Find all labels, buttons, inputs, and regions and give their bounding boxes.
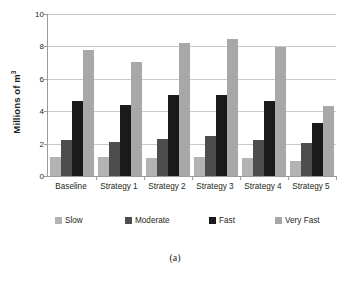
bar xyxy=(323,106,334,176)
bar-group xyxy=(288,14,336,176)
y-axis-title: Millions of m3 xyxy=(10,42,22,162)
bar xyxy=(146,158,157,176)
plot-area xyxy=(47,14,336,177)
bar xyxy=(98,157,109,176)
bar xyxy=(179,43,190,176)
x-axis-tick xyxy=(240,176,241,180)
legend-item[interactable]: Very Fast xyxy=(275,216,320,225)
bar xyxy=(50,157,61,176)
legend-label: Slow xyxy=(65,216,83,225)
x-axis-category-label: Baseline xyxy=(55,182,86,191)
bar xyxy=(109,142,120,176)
bar xyxy=(72,101,83,176)
legend-swatch-icon xyxy=(275,217,282,224)
bar xyxy=(194,157,205,176)
x-axis-category-label: Strategy 5 xyxy=(292,182,329,191)
y-axis-tick-labels: 0246810 xyxy=(24,14,44,176)
x-axis-tick xyxy=(192,176,193,180)
bar xyxy=(290,161,301,176)
legend-item[interactable]: Slow xyxy=(55,216,83,225)
bar xyxy=(61,140,72,176)
y-axis-tick xyxy=(44,46,48,47)
bar xyxy=(168,95,179,176)
bar-chart: Millions of m3 0246810 BaselineStrategy … xyxy=(0,0,350,243)
y-axis-tick xyxy=(44,144,48,145)
legend-item[interactable]: Moderate xyxy=(125,216,170,225)
bar xyxy=(205,136,216,176)
x-axis-tick xyxy=(288,176,289,180)
figure-caption: (a) xyxy=(0,252,350,263)
bar-groups xyxy=(48,14,336,176)
legend-swatch-icon xyxy=(125,217,132,224)
bar-group xyxy=(192,14,240,176)
x-axis-category-label: Strategy 2 xyxy=(148,182,185,191)
bar xyxy=(157,139,168,176)
y-axis-title-superscript: 3 xyxy=(10,71,17,75)
x-axis-category-label: Strategy 4 xyxy=(244,182,281,191)
legend-item[interactable]: Fast xyxy=(209,216,235,225)
bar xyxy=(301,143,312,176)
bar xyxy=(120,105,131,176)
bar-group xyxy=(144,14,192,176)
x-axis-category-labels: BaselineStrategy 1Strategy 2Strategy 3St… xyxy=(47,182,335,198)
bar xyxy=(312,123,323,176)
bar xyxy=(275,47,286,176)
bar xyxy=(253,140,264,176)
y-axis-tick xyxy=(44,79,48,80)
legend-label: Very Fast xyxy=(285,216,320,225)
chart-legend: SlowModerateFastVery Fast xyxy=(47,216,335,232)
legend-label: Moderate xyxy=(135,216,170,225)
bar xyxy=(216,95,227,176)
x-axis-tick xyxy=(336,176,337,180)
y-axis-tick-label: 10 xyxy=(35,10,44,19)
x-axis-category-label: Strategy 3 xyxy=(196,182,233,191)
bar-group xyxy=(48,14,96,176)
bar xyxy=(83,50,94,176)
figure-panel: Millions of m3 0246810 BaselineStrategy … xyxy=(0,0,350,282)
x-axis-category-label: Strategy 1 xyxy=(100,182,137,191)
x-axis-tick xyxy=(96,176,97,180)
bar xyxy=(242,158,253,176)
y-axis-title-text: Millions of m xyxy=(11,74,22,133)
y-axis-tick xyxy=(44,176,48,177)
bar-group xyxy=(240,14,288,176)
y-axis-tick xyxy=(44,14,48,15)
legend-swatch-icon xyxy=(209,217,216,224)
bar xyxy=(264,101,275,176)
y-axis-tick xyxy=(44,111,48,112)
legend-label: Fast xyxy=(219,216,235,225)
x-axis-tick xyxy=(144,176,145,180)
bar-group xyxy=(96,14,144,176)
bar xyxy=(131,62,142,176)
bar xyxy=(227,39,238,176)
legend-swatch-icon xyxy=(55,217,62,224)
